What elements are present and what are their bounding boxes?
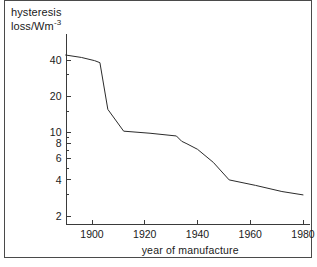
x-tick-label: 1940	[186, 228, 210, 240]
chart-figure: hysteresis loss/Wm-3 4020108642 19001920…	[0, 0, 317, 267]
x-tick-label: 1900	[80, 228, 104, 240]
x-tick-label: 1960	[239, 228, 263, 240]
y-tick-label: 20	[50, 90, 62, 102]
x-tick-label: 1980	[291, 228, 315, 240]
y-tick-label: 2	[56, 210, 62, 222]
x-tick-labels: 19001920194019601980	[80, 228, 315, 240]
data-series-line	[66, 55, 303, 195]
y-tick-label: 40	[50, 54, 62, 66]
y-tick-label: 8	[56, 137, 62, 149]
y-tick-label: 6	[56, 152, 62, 164]
y-tick-label: 4	[56, 174, 62, 186]
plot-area: 4020108642 19001920194019601980 year of …	[0, 0, 317, 267]
y-tick-label: 10	[50, 126, 62, 138]
x-tick-label: 1920	[133, 228, 157, 240]
y-tick-labels: 4020108642	[50, 54, 62, 222]
x-axis-title: year of manufacture	[142, 244, 239, 256]
